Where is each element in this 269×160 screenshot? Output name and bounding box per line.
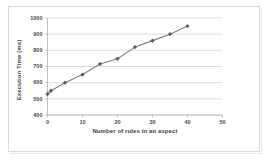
y-tick-label: 500: [23, 96, 43, 102]
y-axis-title-text: Execution Time (ms): [16, 40, 22, 100]
x-tick-label: 30: [145, 119, 161, 125]
x-tick-label: 50: [215, 119, 231, 125]
y-tick-label: 600: [23, 79, 43, 85]
y-tick-label: 700: [23, 63, 43, 69]
y-tick-label: 1000: [23, 15, 43, 21]
x-tick-label: 40: [180, 119, 196, 125]
y-tick-label: 400: [23, 112, 43, 118]
y-tick-label: 900: [23, 31, 43, 37]
x-tick-label: 20: [110, 119, 126, 125]
y-tick-label: 800: [23, 47, 43, 53]
gridlines: [48, 18, 223, 115]
x-axis-title: Number of rules in an aspect: [46, 128, 224, 134]
x-tick-label: 10: [75, 119, 91, 125]
x-tick-label: 0: [40, 119, 56, 125]
